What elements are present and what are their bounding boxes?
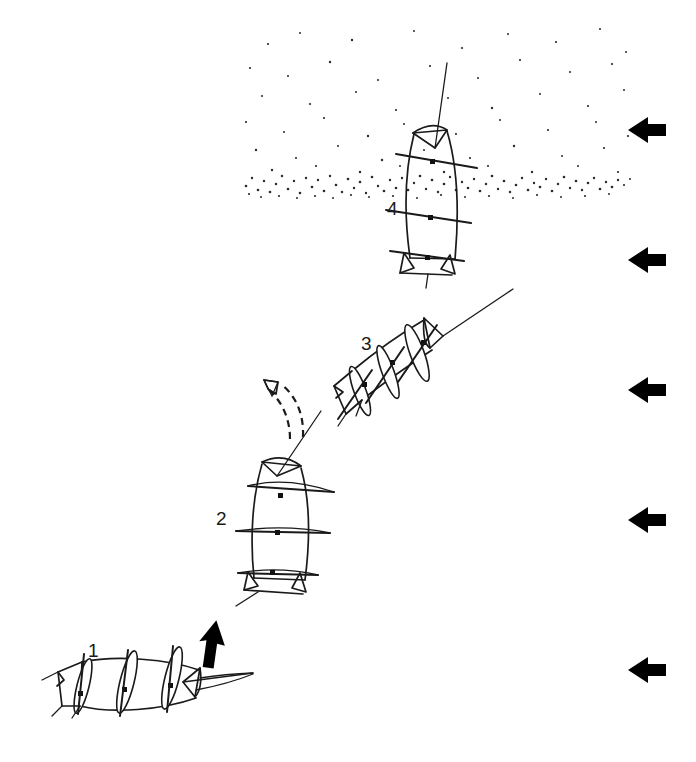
flow-arrow-left-icon-5 [628,657,666,683]
stage-label-4: 4 [387,198,398,219]
stage-label-2: 2 [216,508,227,529]
organism-stage-4 [386,63,477,288]
flow-arrow-left-icon-1 [628,117,666,143]
flow-arrow-left-icon-3 [628,377,666,403]
organism-stage-2 [236,411,334,606]
scientific-figure: .ln{fill:none;stroke:#1a1a1a;stroke-widt… [0,0,696,762]
sediment-particle-field [245,28,631,199]
flow-arrow-group [628,117,666,683]
motion-arrow-dashed-rotation-icon [264,380,303,439]
stage-label-3: 3 [361,333,372,354]
flow-arrow-left-icon-4 [628,507,666,533]
motion-arrow-solid-up-icon [196,618,228,669]
figure-canvas: .ln{fill:none;stroke:#1a1a1a;stroke-widt… [0,0,696,762]
organism-stage-3 [334,289,513,426]
flow-arrow-left-icon-2 [628,247,666,273]
stage-label-1: 1 [88,640,99,661]
organism-stage-1 [42,645,253,718]
